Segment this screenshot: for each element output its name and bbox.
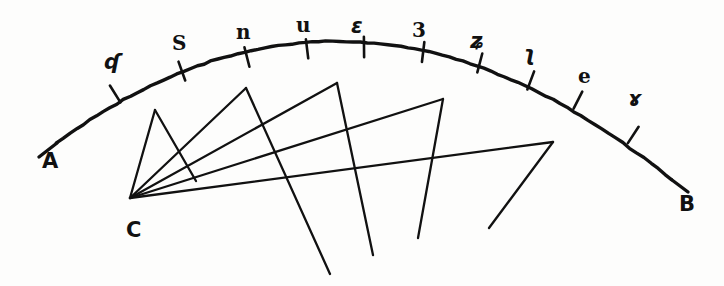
tick-label-2: S bbox=[172, 33, 186, 53]
tick-mark-7 bbox=[477, 53, 482, 72]
tick-mark-1 bbox=[110, 86, 121, 103]
ray-group bbox=[130, 83, 553, 274]
ray-4-downstroke bbox=[418, 99, 443, 238]
tick-label-4: u bbox=[296, 15, 311, 35]
tick-label-3: n bbox=[236, 22, 251, 42]
tick-mark-6 bbox=[422, 42, 424, 62]
ray-5-downstroke bbox=[489, 142, 553, 228]
point-a-label: A bbox=[42, 151, 58, 172]
ray-1-downstroke bbox=[155, 110, 196, 181]
tick-label-7: ʑ bbox=[470, 31, 484, 52]
tick-label-5: ε bbox=[351, 16, 363, 37]
diagram-svg bbox=[0, 0, 724, 286]
ray-5-upstroke bbox=[130, 142, 553, 198]
figure-canvas: ʠSnuε3ʑʅeɤ ABC bbox=[0, 0, 724, 286]
tick-mark-9 bbox=[574, 92, 583, 109]
tick-label-1: ʠ bbox=[104, 52, 121, 73]
point-b-label: B bbox=[679, 194, 695, 215]
tick-mark-10 bbox=[628, 127, 639, 143]
tick-label-10: ɤ bbox=[628, 89, 641, 110]
point-c-label: C bbox=[126, 220, 141, 241]
tick-label-9: e bbox=[578, 66, 591, 86]
tick-mark-group bbox=[110, 37, 639, 143]
arc-ab bbox=[56, 41, 671, 180]
tick-label-6: 3 bbox=[412, 20, 426, 40]
tick-label-8: ʅ bbox=[523, 44, 536, 65]
arc-end-stub-b bbox=[672, 180, 688, 192]
